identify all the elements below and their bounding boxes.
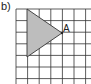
grid-diagram: A xyxy=(0,0,91,84)
vertex-a-label: A xyxy=(63,23,70,34)
triangle-shape xyxy=(27,9,62,57)
